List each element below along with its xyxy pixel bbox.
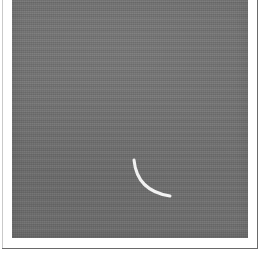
frame-rule-left	[2, 0, 3, 249]
scanned-figure-screenshot	[0, 0, 263, 253]
plate-grain-texture	[12, 0, 248, 238]
plate-edge-bottom	[12, 235, 248, 238]
plate-edge-top	[12, 0, 248, 2]
frame-rule-bottom	[2, 248, 258, 249]
gray-photographic-plate	[12, 0, 248, 238]
frame-rule-right	[257, 0, 258, 249]
